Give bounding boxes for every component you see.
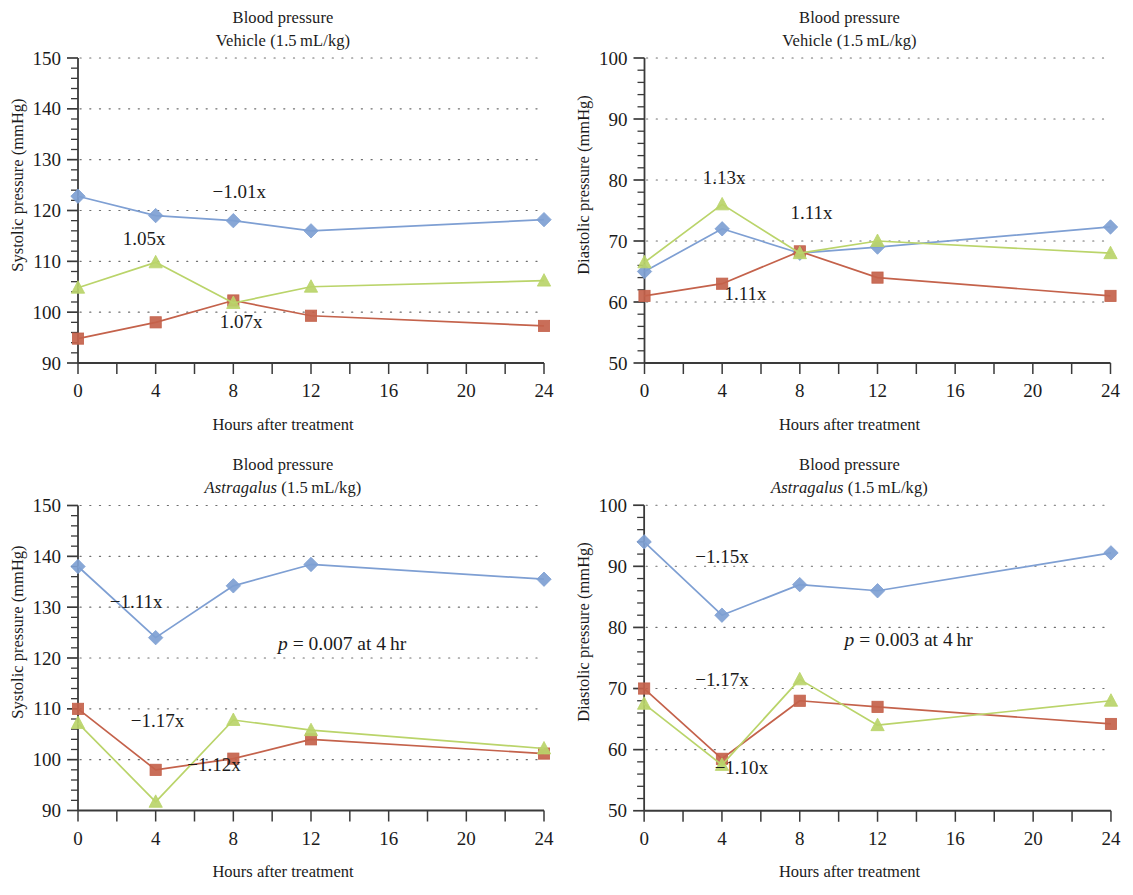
- data-point-marker: [1104, 546, 1118, 560]
- data-point-marker: [304, 557, 318, 571]
- x-tick-label: 0: [640, 380, 650, 401]
- data-point-marker: [149, 255, 162, 267]
- data-point-marker: [639, 290, 650, 301]
- p-value-annotation: p= 0.003 at 4 hr: [843, 629, 974, 650]
- y-tick-label: 140: [33, 98, 62, 119]
- x-tick-label: 20: [457, 380, 476, 401]
- data-point-marker: [793, 577, 807, 591]
- y-tick-label: 150: [33, 495, 62, 516]
- fold-change-annotation: 1.07x: [220, 311, 263, 332]
- chart-panel-top-left: Blood pressureVehicle (1.5 mL/kg)Systoli…: [0, 0, 566, 447]
- x-tick-label: 20: [1023, 380, 1042, 401]
- y-tick-label: 90: [608, 556, 627, 577]
- data-point-marker: [537, 572, 551, 586]
- data-point-marker: [1105, 718, 1116, 729]
- data-point-marker: [537, 212, 551, 226]
- data-point-marker: [226, 579, 240, 593]
- x-tick-label: 20: [457, 828, 476, 849]
- x-tick-label: 16: [946, 828, 965, 849]
- x-tick-label: 12: [868, 828, 887, 849]
- data-point-marker: [305, 310, 316, 321]
- data-point-marker: [871, 234, 884, 246]
- x-tick-label: 24: [1101, 380, 1121, 401]
- data-point-marker: [226, 213, 240, 227]
- data-point-marker: [150, 317, 161, 328]
- data-point-marker: [794, 695, 805, 706]
- x-tick-label: 4: [151, 828, 161, 849]
- p-value-text: = 0.003 at 4 hr: [859, 629, 973, 650]
- fold-change-annotation: −1.17x: [131, 710, 185, 731]
- data-point-marker: [72, 703, 83, 714]
- data-point-marker: [150, 764, 161, 775]
- fold-change-annotation: 1.13x: [703, 167, 746, 188]
- y-tick-label: 130: [33, 149, 62, 170]
- p-value-text: = 0.007 at 4 hr: [293, 633, 407, 654]
- data-point-marker: [870, 584, 884, 598]
- data-point-marker: [71, 716, 84, 728]
- data-point-marker: [793, 672, 806, 684]
- x-tick-label: 16: [379, 828, 398, 849]
- y-tick-label: 60: [609, 292, 628, 313]
- fold-change-annotation: −1.12x: [187, 754, 241, 775]
- x-tick-label: 4: [717, 380, 727, 401]
- data-point-marker: [71, 189, 85, 203]
- fold-change-annotation: −1.10x: [715, 757, 769, 778]
- x-tick-label: 0: [73, 828, 83, 849]
- plot-area: 5060708090100048121620241.13x1.11x1.11x: [566, 0, 1133, 447]
- chart-panel-bottom-right: Blood pressureAstragalus (1.5 mL/kg)Dias…: [566, 447, 1133, 895]
- plot-area: 506070809010004812162024−1.15x−1.17x−1.1…: [566, 447, 1133, 895]
- p-value-annotation: p= 0.007 at 4 hr: [276, 633, 407, 654]
- x-tick-label: 12: [302, 380, 321, 401]
- p-value-symbol: p: [276, 633, 288, 654]
- data-point-marker: [639, 683, 650, 694]
- data-point-marker: [538, 320, 549, 331]
- x-tick-label: 8: [229, 380, 239, 401]
- y-tick-label: 100: [599, 495, 628, 516]
- y-tick-label: 110: [33, 698, 61, 719]
- y-tick-label: 80: [609, 170, 628, 191]
- data-point-marker: [1103, 220, 1117, 234]
- x-tick-label: 12: [868, 380, 887, 401]
- y-tick-label: 90: [609, 109, 628, 130]
- fold-change-annotation: 1.05x: [123, 228, 166, 249]
- y-tick-label: 100: [599, 48, 628, 69]
- fold-change-annotation: −1.15x: [695, 546, 749, 567]
- chart-panel-top-right: Blood pressureVehicle (1.5 mL/kg)Diastol…: [566, 0, 1133, 447]
- y-tick-label: 50: [609, 353, 628, 374]
- x-tick-label: 0: [73, 380, 83, 401]
- y-tick-label: 110: [33, 251, 61, 272]
- fold-change-annotation: −1.17x: [695, 669, 749, 690]
- data-point-marker: [872, 272, 883, 283]
- p-value-symbol: p: [843, 629, 855, 650]
- fold-change-annotation: 1.11x: [790, 202, 833, 223]
- data-point-marker: [227, 713, 240, 725]
- y-tick-label: 70: [609, 231, 628, 252]
- data-point-marker: [872, 701, 883, 712]
- y-tick-label: 60: [608, 739, 627, 760]
- x-tick-label: 16: [379, 380, 398, 401]
- series-series3: [71, 255, 550, 308]
- y-tick-label: 140: [33, 546, 62, 567]
- data-point-marker: [1104, 694, 1117, 706]
- data-point-marker: [715, 222, 729, 236]
- y-tick-label: 100: [33, 302, 62, 323]
- y-tick-label: 120: [33, 200, 62, 221]
- x-tick-label: 24: [535, 380, 555, 401]
- x-tick-label: 12: [302, 828, 321, 849]
- x-tick-label: 4: [151, 380, 161, 401]
- data-point-marker: [537, 274, 550, 286]
- x-tick-label: 16: [946, 380, 965, 401]
- data-point-marker: [1105, 290, 1116, 301]
- plot-area: 9010011012013014015004812162024−1.11x−1.…: [0, 447, 566, 895]
- x-tick-label: 24: [535, 828, 555, 849]
- x-tick-label: 4: [717, 828, 727, 849]
- fold-change-annotation: 1.11x: [724, 283, 767, 304]
- fold-change-annotation: −1.01x: [212, 181, 266, 202]
- y-tick-label: 90: [42, 353, 61, 374]
- y-tick-label: 100: [33, 749, 62, 770]
- data-point-marker: [72, 333, 83, 344]
- x-tick-label: 24: [1101, 828, 1121, 849]
- chart-panel-bottom-left: Blood pressureAstragalus (1.5 mL/kg)Syst…: [0, 447, 566, 895]
- data-point-marker: [304, 224, 318, 238]
- data-point-marker: [148, 208, 162, 222]
